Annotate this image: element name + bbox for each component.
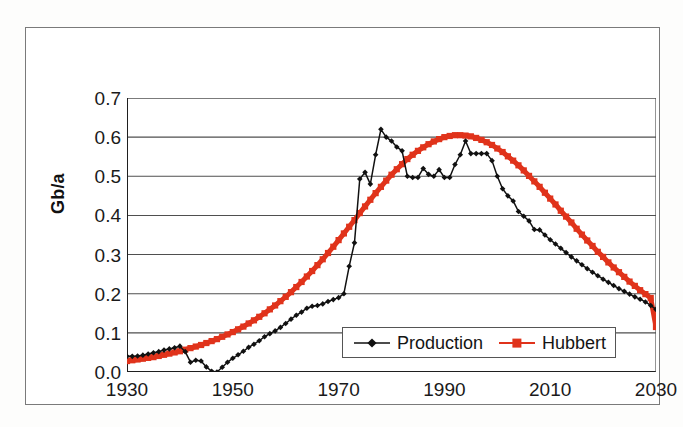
x-axis-tick-labels: 193019501970199020102030	[127, 380, 656, 410]
y-tick-label: 0.3	[75, 246, 121, 265]
y-tick-label: 0.2	[75, 285, 121, 304]
x-tick-label: 2030	[635, 380, 677, 399]
y-tick-label: 0.7	[75, 89, 121, 108]
legend-marker-square-icon	[497, 336, 537, 350]
x-tick-label: 1990	[423, 380, 465, 399]
chart-legend: Production Hubbert	[342, 327, 616, 358]
legend-item-production: Production	[352, 334, 483, 352]
legend-label-hubbert: Hubbert	[542, 334, 606, 352]
x-tick-label: 1970	[317, 380, 359, 399]
y-tick-label: 0.5	[75, 167, 121, 186]
y-tick-label: 0.4	[75, 206, 121, 225]
x-tick-label: 1950	[212, 380, 254, 399]
y-tick-label: 0.1	[75, 324, 121, 343]
x-tick-label: 1930	[106, 380, 148, 399]
chart-page: Gb/a 0.00.10.20.30.40.50.60.7 1930195019…	[0, 0, 683, 427]
y-axis-title: Gb/a	[48, 173, 69, 214]
y-axis-tick-labels: 0.00.10.20.30.40.50.60.7	[71, 98, 121, 372]
gridlines	[127, 98, 656, 333]
legend-marker-diamond-icon	[352, 336, 392, 350]
legend-item-hubbert: Hubbert	[497, 334, 606, 352]
y-tick-label: 0.6	[75, 128, 121, 147]
legend-label-production: Production	[397, 334, 483, 352]
x-tick-label: 2010	[529, 380, 571, 399]
figure-frame: Gb/a 0.00.10.20.30.40.50.60.7 1930195019…	[25, 27, 660, 405]
